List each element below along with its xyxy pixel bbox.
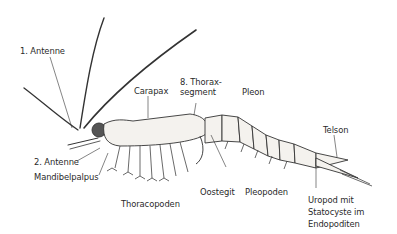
label-uropod-line1: Uropod mit (308, 195, 354, 205)
label-pleon: Pleon (242, 87, 264, 97)
label-carapax: Carapax (134, 86, 168, 96)
label-telson: Telson (323, 125, 348, 135)
label-mandibelpalpus: Mandibelpalpus (34, 172, 98, 182)
label-oostegit: Oostegit (200, 187, 235, 197)
label-uropod-line2: Statocyste im (308, 207, 364, 217)
label-antenne-2: 2. Antenne (34, 157, 79, 167)
label-antenne-1: 1. Antenne (20, 46, 65, 56)
label-thoraxsegment-line1: 8. Thorax- (180, 77, 222, 87)
label-uropod-line3: Endopoditen (308, 219, 360, 229)
label-pleopoden: Pleopoden (245, 187, 288, 197)
label-thoraxsegment-line2: segment (180, 87, 216, 97)
label-thoracopoden: Thoracopoden (121, 199, 180, 209)
